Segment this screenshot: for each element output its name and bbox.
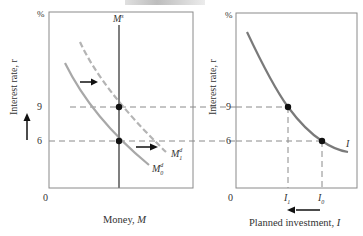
money-label-var: M [136,214,147,225]
money-demand-0-label: Md0 [151,162,164,176]
demand-shift-arrow-top [80,79,98,86]
investment-decrease-arrow [287,207,320,214]
left-y-axis-label: Interest rate, r [8,59,19,115]
right-y-unit-label: % [225,10,233,20]
right-tick-6: 6 [226,135,231,146]
left-x-axis-label: Money, M [103,214,147,225]
investment-curve [247,32,348,152]
left-panel-frame [49,12,193,188]
i1-tick-label: I1 [283,192,290,205]
left-y-unit-label: % [37,9,45,19]
top-decorative-bar [125,0,205,5]
money-market-panel: % 9 6 0 Interest rate, r Money, M Ms Md1… [8,9,236,225]
left-origin-label: 0 [43,192,48,203]
right-x-axis-label: Planned investment, I [249,217,341,228]
left-tick-9: 9 [37,101,42,112]
rate-increase-arrow [24,113,31,140]
investment-panel: % 9 6 0 Interest rate, r I1 I0 I Planned… [207,10,357,228]
money-demand-curve-0 [65,63,149,165]
investment-label-var: I [336,217,341,228]
equilibrium-point-6 [116,138,122,144]
right-origin-label: 0 [228,192,233,203]
right-y-axis-label: Interest rate, r [207,59,218,115]
investment-curve-label: I [345,138,350,149]
equilibrium-point-9 [116,104,122,110]
money-demand-curve-1 [80,42,166,152]
money-supply-label: Ms [112,13,124,24]
money-demand-1-label: Md1 [170,147,183,161]
investment-point-i1 [285,104,291,110]
demand-shift-arrow-bottom [136,144,158,151]
diagram-canvas: % 9 6 0 Interest rate, r Money, M Ms Md1… [0,0,363,236]
i0-tick-label: I0 [317,192,324,205]
investment-label-text: Planned investment, [249,217,337,228]
right-panel-frame [236,13,357,188]
left-tick-6: 6 [37,135,42,146]
money-label-text: Money, [103,214,137,225]
right-tick-9: 9 [226,101,231,112]
investment-point-i0 [319,138,325,144]
